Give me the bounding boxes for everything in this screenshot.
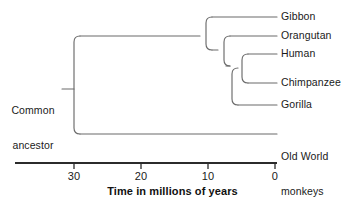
axis-tick-label-0: 0 — [263, 170, 287, 182]
root-label-line2: ancestor — [6, 140, 60, 152]
branch-root-vertical — [74, 36, 80, 134]
tip-label-orangutan: Orangutan — [281, 30, 332, 42]
node-great-apes-vertical — [224, 36, 230, 66]
tip-label-human: Human — [281, 48, 315, 60]
root-label: Common ancestor — [6, 82, 60, 174]
axis-title: Time in millions of years — [0, 185, 345, 197]
node-african-apes-vertical — [232, 68, 238, 105]
node-human-chimp-vertical — [242, 54, 248, 83]
tip-label-gibbon: Gibbon — [281, 11, 315, 23]
node-apes-vertical — [206, 17, 212, 50]
axis-tick-label-10: 10 — [196, 170, 220, 182]
tip-label-old-world-monkeys-line1: Old World — [281, 151, 328, 163]
tip-label-gorilla: Gorilla — [281, 99, 312, 111]
axis-tick-label-20: 20 — [129, 170, 153, 182]
tip-label-chimpanzee: Chimpanzee — [281, 77, 341, 89]
phylogenetic-tree-figure: Common ancestor Gibbon Orangutan Human C… — [0, 0, 345, 208]
root-label-line1: Common — [6, 105, 60, 117]
axis-tick-label-30: 30 — [62, 170, 86, 182]
